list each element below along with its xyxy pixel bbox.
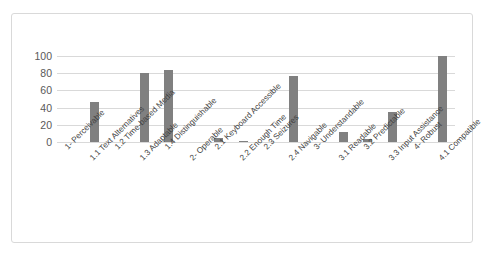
y-axis-tick-label: 80	[18, 68, 52, 79]
y-axis-tick-label: 40	[18, 102, 52, 113]
y-axis-tick-label: 60	[18, 85, 52, 96]
x-axis-labels: 1- Perceivable1.1 Text Alternatives1.2 T…	[57, 143, 455, 238]
bar	[339, 132, 348, 142]
chart-container: 020406080100 1- Perceivable1.1 Text Alte…	[0, 0, 484, 261]
bar	[239, 141, 248, 142]
y-axis: 020406080100	[18, 0, 52, 261]
y-axis-tick-label: 100	[18, 51, 52, 62]
y-axis-tick-label: 20	[18, 120, 52, 131]
bar	[289, 76, 298, 142]
y-axis-tick-label: 0	[18, 137, 52, 148]
